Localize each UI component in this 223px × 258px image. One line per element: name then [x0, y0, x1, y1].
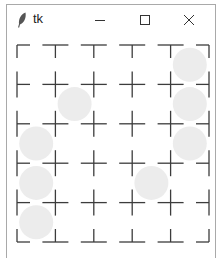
stone[interactable]	[19, 166, 53, 200]
minimize-icon	[94, 14, 106, 26]
stone[interactable]	[173, 87, 207, 121]
feather-icon	[17, 12, 27, 28]
close-button[interactable]	[167, 5, 211, 34]
stone[interactable]	[19, 127, 53, 161]
stone[interactable]	[19, 205, 53, 239]
stone[interactable]	[173, 127, 207, 161]
tk-window: tk	[6, 4, 216, 258]
stone[interactable]	[173, 48, 207, 82]
board-canvas[interactable]	[7, 34, 215, 258]
maximize-button[interactable]	[123, 5, 167, 34]
stone[interactable]	[58, 87, 92, 121]
title-bar[interactable]: tk	[7, 5, 215, 34]
maximize-icon	[139, 14, 151, 26]
close-icon	[183, 14, 195, 26]
board-grid[interactable]	[7, 34, 215, 258]
minimize-button[interactable]	[78, 5, 122, 34]
stone[interactable]	[134, 166, 168, 200]
window-title: tk	[33, 11, 43, 26]
